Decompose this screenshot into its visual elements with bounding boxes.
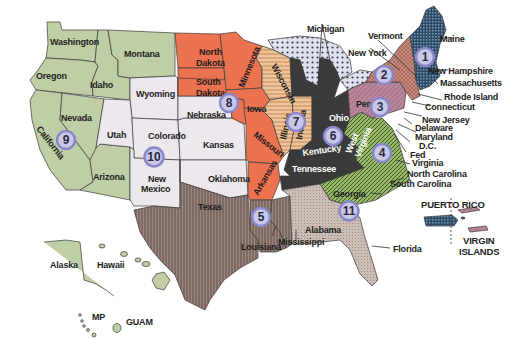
label-new-hampshire: New Hampshire bbox=[428, 66, 493, 76]
label-texas: Texas bbox=[198, 202, 222, 212]
label-iowa: Iowa bbox=[247, 104, 267, 114]
label-south-dakota-1: South bbox=[196, 77, 221, 87]
svg-text:3: 3 bbox=[377, 100, 384, 114]
label-oklahoma: Oklahoma bbox=[208, 174, 251, 184]
label-georgia: Georgia bbox=[333, 189, 367, 199]
label-ohio: Ohio bbox=[329, 113, 349, 123]
label-idaho: Idaho bbox=[90, 80, 114, 90]
label-south-carolina: South Carolina bbox=[390, 179, 452, 189]
label-rhode-island: Rhode Island bbox=[444, 92, 498, 102]
label-nevada: Nevada bbox=[61, 113, 93, 123]
district-11-bubble: 11 bbox=[340, 202, 359, 221]
label-alabama: Alabama bbox=[305, 225, 342, 235]
district-4-bubble: 4 bbox=[373, 144, 391, 162]
label-puerto-rico: PUERTO RICO bbox=[421, 199, 485, 210]
label-arizona: Arizona bbox=[93, 172, 126, 182]
label-utah: Utah bbox=[107, 130, 126, 140]
svg-text:11: 11 bbox=[343, 204, 356, 218]
label-mississippi: Mississippi bbox=[278, 237, 324, 247]
district-8-bubble: 8 bbox=[220, 94, 238, 112]
district-1-bubble: 1 bbox=[416, 48, 434, 66]
label-vermont: Vermont bbox=[368, 31, 403, 41]
virgin-islands-shape-2 bbox=[468, 226, 488, 232]
label-washington: Washington bbox=[50, 37, 99, 47]
district-2-bubble: 2 bbox=[375, 66, 393, 84]
label-new-mexico-2: Mexico bbox=[141, 184, 171, 194]
district-6-bubble: 6 bbox=[324, 127, 342, 145]
label-north-dakota-2: Dakota bbox=[196, 58, 226, 68]
label-connecticut: Connecticut bbox=[425, 102, 475, 112]
label-oregon: Oregon bbox=[36, 71, 67, 81]
label-wyoming: Wyoming bbox=[136, 89, 175, 99]
svg-text:8: 8 bbox=[226, 96, 233, 110]
label-virgin-islands-1: VIRGIN bbox=[463, 235, 495, 246]
svg-text:7: 7 bbox=[293, 115, 300, 129]
fed-districts-map: Washington Oregon Idaho Montana Wyoming … bbox=[0, 0, 525, 353]
svg-text:1: 1 bbox=[422, 50, 429, 64]
label-virgin-islands-2: ISLANDS bbox=[459, 246, 499, 257]
label-tennessee: Tennessee bbox=[292, 164, 336, 174]
svg-text:10: 10 bbox=[147, 150, 161, 164]
label-michigan: Michigan bbox=[307, 24, 344, 34]
district-7-bubble: 7 bbox=[287, 113, 305, 131]
label-mp: MP bbox=[92, 312, 105, 322]
label-nebraska: Nebraska bbox=[187, 110, 227, 120]
puerto-rico-islet bbox=[461, 217, 465, 219]
district-9-bubble: 9 bbox=[57, 131, 75, 149]
label-north-dakota-1: North bbox=[199, 47, 222, 57]
svg-text:5: 5 bbox=[258, 210, 265, 224]
puerto-rico-shape bbox=[424, 215, 458, 226]
label-maine: Maine bbox=[440, 34, 465, 44]
label-fed: Fed bbox=[410, 150, 425, 160]
svg-text:6: 6 bbox=[330, 129, 337, 143]
label-alaska: Alaska bbox=[50, 260, 79, 270]
label-florida: Florida bbox=[393, 244, 423, 254]
label-massachusetts: Massachusetts bbox=[440, 78, 502, 88]
label-louisiana: Louisiana bbox=[241, 242, 282, 252]
label-colorado: Colorado bbox=[148, 131, 187, 141]
label-new-york: New York bbox=[348, 48, 388, 58]
guam-island bbox=[113, 324, 121, 333]
district-3-bubble: 3 bbox=[371, 98, 389, 116]
district-5-bubble: 5 bbox=[252, 208, 270, 226]
label-guam: GUAM bbox=[126, 317, 153, 327]
label-new-mexico-1: New bbox=[148, 174, 167, 184]
svg-text:9: 9 bbox=[63, 133, 70, 147]
label-north-carolina: North Carolina bbox=[407, 169, 468, 179]
label-kansas: Kansas bbox=[203, 140, 234, 150]
label-montana: Montana bbox=[124, 49, 161, 59]
district-10-bubble: 10 bbox=[145, 148, 164, 167]
label-hawaii: Hawaii bbox=[97, 260, 124, 270]
svg-text:4: 4 bbox=[379, 146, 386, 160]
svg-text:2: 2 bbox=[381, 68, 388, 82]
